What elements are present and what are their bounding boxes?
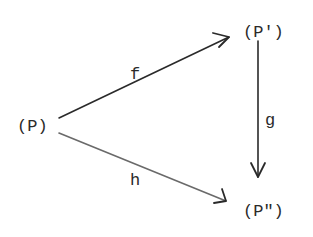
arrow-g [251,41,265,177]
arrow-h-label: h [130,171,140,190]
arrow-h-shaft [59,133,226,201]
node-p-prime: (P') [243,23,284,42]
node-p: (P) [17,117,48,136]
arrow-f [59,33,229,118]
arrow-f-label: f [130,65,140,84]
arrow-g-label: g [265,111,275,130]
commutative-diagram: (P) (P') (P") f g h [0,0,313,237]
arrow-f-shaft [59,37,229,118]
arrow-h [59,133,226,203]
node-p-double-prime: (P") [243,202,284,221]
